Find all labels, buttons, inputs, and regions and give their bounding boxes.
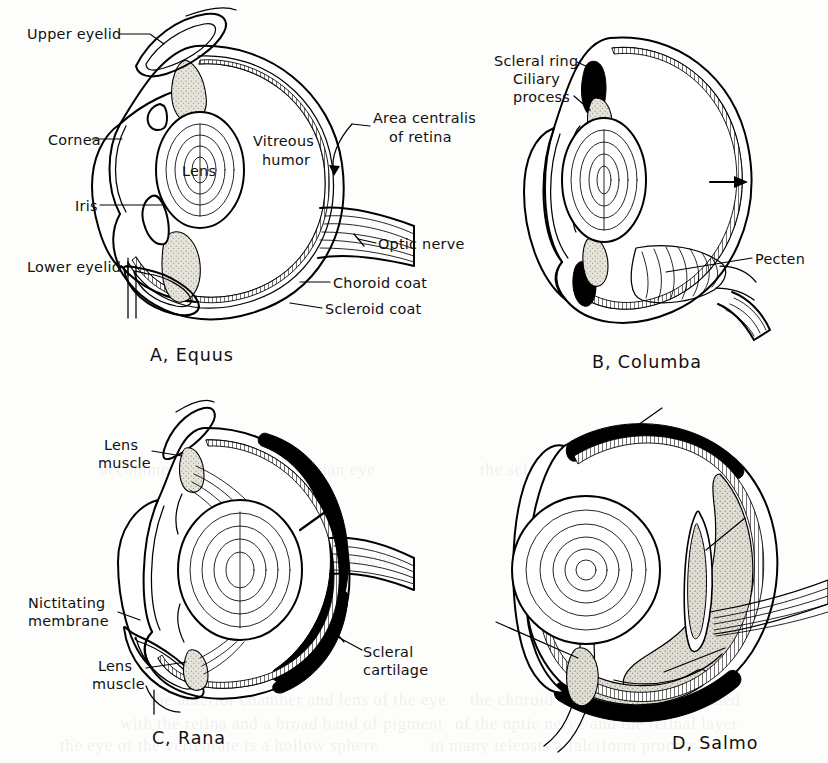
panel-a-equus: A, Equus Upper eyelid Cornea Iris Lower … [0, 0, 414, 390]
panel-d-diagram [414, 390, 828, 763]
label-vitreous-humor-a-2: humor [262, 152, 310, 169]
panel-b-columba: B, Columba Scleral ring Ciliary process … [414, 0, 828, 390]
panel-a-diagram [0, 0, 414, 390]
label-pecten-b: Pecten [755, 251, 805, 268]
leader-upper-eyelid-a [119, 34, 164, 44]
leader-scleroid-a [290, 303, 322, 308]
label-lens-muscle-upper-c: Lens [104, 437, 138, 454]
lens-d [512, 496, 660, 644]
label-nictitating-c: Nictitating [28, 595, 105, 612]
panel-c-rana: C, Rana Lens muscle Nictitating membrane… [0, 390, 414, 763]
label-ciliary-process-b: Ciliary [513, 71, 560, 88]
label-lens-muscle-lower-c-2: muscle [92, 676, 145, 693]
label-scleroid-coat-a: Scleroid coat [325, 301, 421, 318]
label-lens-a: Lens [182, 163, 216, 180]
label-cornea-a: Cornea [48, 132, 101, 149]
panel-b-caption: B, Columba [592, 352, 702, 372]
leader-area-centralis-a [352, 124, 370, 126]
label-nictitating-c-2: membrane [28, 613, 109, 630]
panel-d-salmo: D, Salmo Scleral cartilage (partly ossif… [414, 390, 828, 763]
label-lower-eyelid-a: Lower eyelid [27, 259, 121, 276]
panel-c-diagram [0, 390, 414, 763]
panel-b-diagram [414, 0, 828, 390]
anatomy-plate: the anterior chamber and lens of the eye… [0, 0, 828, 763]
label-ciliary-process-b-2: process [513, 89, 570, 106]
label-vitreous-humor-a: Vitreous [253, 133, 314, 150]
panel-c-caption: C, Rana [152, 728, 226, 748]
label-scleral-ring-b: Scleral ring [494, 53, 578, 70]
label-upper-eyelid-a: Upper eyelid [27, 26, 122, 43]
panel-a-caption: A, Equus [150, 345, 234, 365]
panel-d-caption: D, Salmo [672, 733, 758, 753]
optic-nerve-b [718, 292, 770, 340]
label-iris-a: Iris [75, 198, 98, 215]
label-lens-muscle-upper-c-2: muscle [98, 455, 151, 472]
label-lens-muscle-lower-c: Lens [98, 658, 132, 675]
label-scleral-cartilage-c: Scleral [363, 644, 413, 661]
